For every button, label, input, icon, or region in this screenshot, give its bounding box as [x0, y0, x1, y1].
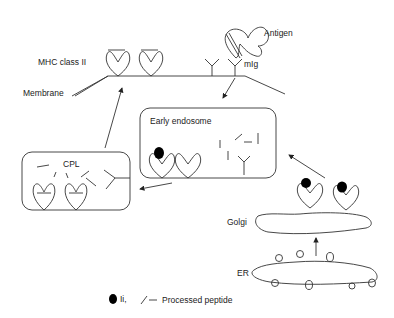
golgi-label: Golgi: [227, 217, 247, 227]
mhc-class-ii-label: MHC class II: [38, 57, 86, 67]
legend-ii-label: Ii,: [120, 294, 127, 304]
mig-receptor-bound: [228, 59, 242, 76]
endoplasmic-reticulum: [252, 261, 377, 284]
mig-label: mIg: [244, 59, 258, 69]
peptide-fragments: [220, 133, 258, 160]
cpl-label: CPL: [63, 159, 80, 169]
mhc-class-ii-antigen-processing-diagram: Membrane MHC class II mIg Antigen Early …: [0, 0, 394, 318]
golgi-to-endosome-arrow: [289, 155, 325, 178]
golgi-apparatus: [256, 213, 372, 234]
mhc-with-peptide: [65, 184, 87, 210]
mhc-with-ii: [333, 182, 358, 211]
er-label: ER: [237, 268, 249, 278]
mig-receptor: [205, 59, 219, 76]
mhc-with-peptide: [33, 184, 55, 210]
mhc-molecule: [175, 154, 200, 178]
legend: Ii, Processed peptide: [109, 294, 233, 305]
membrane: [72, 76, 285, 96]
legend-peptide-label: Processed peptide: [162, 295, 233, 305]
legend-peptide-swatch: [141, 296, 147, 304]
internalization-arrow: [223, 78, 235, 98]
mhc-with-ii: [297, 178, 322, 208]
mig-fragment: [238, 156, 250, 175]
membrane-label: Membrane: [23, 88, 64, 98]
early-endosome-label: Early endosome: [150, 116, 212, 126]
antigen-molecule: [225, 27, 268, 58]
mhc-class-ii-molecule: [106, 50, 130, 76]
mhc-class-ii-molecule: [139, 50, 163, 76]
legend-ii-swatch: [109, 294, 117, 304]
endosome-to-cpl-arrow: [140, 183, 172, 189]
mig-fragment: [104, 170, 130, 189]
export-arrow: [105, 88, 122, 148]
mhc-with-ii: [149, 147, 174, 178]
antigen-label: Antigen: [264, 28, 293, 38]
